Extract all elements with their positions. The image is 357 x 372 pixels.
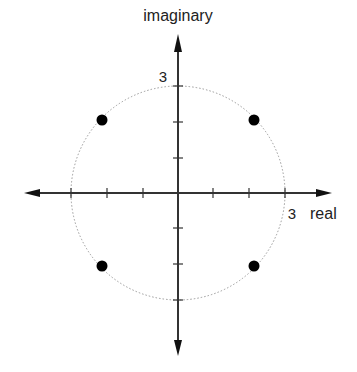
- point-q1: [249, 115, 260, 126]
- complex-plane-diagram: imaginary 3 3 real: [0, 0, 357, 372]
- point-q3: [97, 261, 108, 272]
- real-axis-arrow-right-icon: [316, 189, 332, 197]
- real-tick-label: 3: [288, 205, 296, 222]
- point-q2: [97, 115, 108, 126]
- point-q4: [249, 261, 260, 272]
- imaginary-axis-label: imaginary: [143, 7, 212, 24]
- imaginary-axis-arrow-up-icon: [174, 34, 182, 52]
- imaginary-axis-arrow-down-icon: [174, 340, 182, 356]
- real-axis-label: real: [310, 205, 337, 222]
- imaginary-tick-label: 3: [159, 68, 167, 85]
- real-axis-arrow-left-icon: [24, 189, 40, 197]
